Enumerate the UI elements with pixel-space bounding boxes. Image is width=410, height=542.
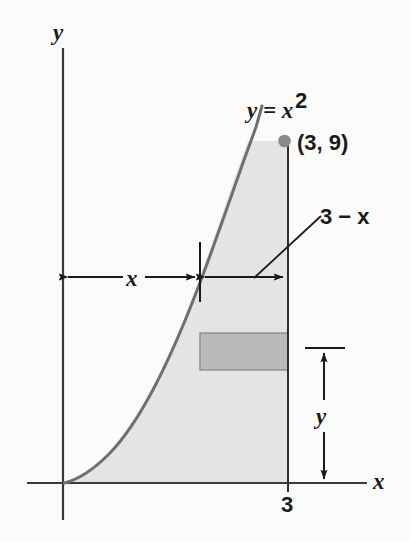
point-3-9-marker bbox=[278, 135, 291, 148]
figure-canvas: y = x 2 (3, 9) 3 − x x bbox=[0, 0, 410, 542]
x-tick-3-label: 3 bbox=[281, 492, 293, 517]
shaded-region bbox=[66, 141, 288, 483]
curve-label-text: y = x bbox=[244, 98, 293, 123]
x-axis-label: x bbox=[372, 469, 385, 494]
representative-strip bbox=[200, 333, 288, 370]
point-label-text: (3, 9) bbox=[297, 130, 348, 155]
x-dimension-group: x bbox=[68, 266, 195, 291]
y-dimension-group: y bbox=[305, 348, 345, 479]
x-dimension-label: x bbox=[125, 266, 138, 291]
point-label: (3, 9) bbox=[297, 130, 348, 155]
curve-label-exponent: 2 bbox=[295, 88, 307, 113]
y-axis-label: y bbox=[50, 20, 64, 45]
curve-label: y = x 2 bbox=[244, 88, 307, 123]
three-minus-x-label: 3 − x bbox=[320, 204, 370, 229]
x-tick-3-group: 3 bbox=[281, 492, 293, 517]
y-dimension-label: y bbox=[313, 404, 327, 429]
math-figure: y = x 2 (3, 9) 3 − x x bbox=[0, 0, 410, 542]
